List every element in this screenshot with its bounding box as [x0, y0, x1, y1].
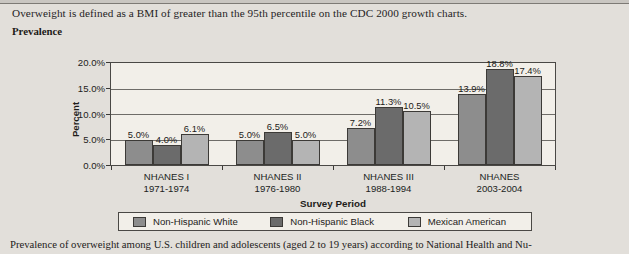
y-axis-tick-label: 10.0%: [78, 108, 105, 119]
survey-name: NHANES II: [222, 171, 333, 183]
x-axis-category-label: NHANES I1971-1974: [111, 171, 222, 194]
bar-value-label: 18.8%: [486, 58, 513, 69]
x-axis-category-label: NHANES II1976-1980: [222, 171, 333, 194]
definition-text: Overweight is defined as a BMI of greate…: [12, 7, 467, 19]
survey-name: NHANES III: [333, 171, 444, 183]
bar[interactable]: 10.5%: [403, 111, 431, 165]
bar[interactable]: 11.3%: [375, 107, 403, 165]
bar-chart: Percent 0.0%5.0%10.0%15.0%20.0% 5.0%4.0%…: [0, 40, 629, 232]
bar-series-container: 5.0%4.0%6.1%5.0%6.5%5.0%7.2%11.3%10.5%13…: [111, 63, 555, 165]
survey-name: NHANES I: [111, 171, 222, 183]
legend-item[interactable]: Mexican American: [394, 216, 531, 227]
y-axis-tick-label: 0.0%: [83, 160, 105, 171]
legend-label: Non-Hispanic White: [153, 216, 238, 227]
bar[interactable]: 6.1%: [181, 134, 209, 165]
bar-group: 13.9%18.8%17.4%: [444, 63, 555, 165]
legend-swatch: [408, 217, 421, 227]
x-axis-category-label: NHANES III1988-1994: [333, 171, 444, 194]
x-axis-title: Survey Period: [111, 198, 555, 209]
legend-item[interactable]: Non-Hispanic White: [119, 216, 256, 227]
bar[interactable]: 4.0%: [153, 145, 181, 165]
survey-name: NHANES: [444, 171, 555, 183]
y-axis-tick-label: 20.0%: [78, 57, 105, 68]
bar-value-label: 10.5%: [403, 100, 430, 111]
survey-years: 1988-1994: [333, 183, 444, 195]
y-axis-tick-label: 15.0%: [78, 82, 105, 93]
y-axis-tick-label: 5.0%: [83, 134, 105, 145]
bar-group: 5.0%4.0%6.1%: [111, 63, 222, 165]
bar-value-label: 6.5%: [267, 121, 288, 132]
bar-value-label: 7.2%: [350, 117, 371, 128]
prevalence-heading: Prevalence: [12, 25, 62, 37]
bar-value-label: 6.1%: [184, 123, 205, 134]
survey-years: 1971-1974: [111, 183, 222, 195]
bar[interactable]: 13.9%: [458, 94, 486, 165]
legend-item[interactable]: Non-Hispanic Black: [256, 216, 393, 227]
document-page: Overweight is defined as a BMI of greate…: [0, 0, 629, 254]
x-axis-tick-mark: [555, 166, 556, 170]
legend-label: Mexican American: [428, 216, 506, 227]
bar-value-label: 5.0%: [128, 129, 149, 140]
x-axis-tick-mark: [222, 166, 223, 170]
bar[interactable]: 7.2%: [347, 128, 375, 165]
x-axis-tick-mark: [444, 166, 445, 170]
bar[interactable]: 5.0%: [292, 140, 320, 166]
bar-value-label: 11.3%: [376, 96, 402, 107]
bar-value-label: 5.0%: [239, 129, 260, 140]
chart-legend: Non-Hispanic WhiteNon-Hispanic BlackMexi…: [118, 212, 532, 231]
bar-value-label: 13.9%: [458, 83, 485, 94]
bar-value-label: 5.0%: [295, 129, 316, 140]
survey-years: 2003-2004: [444, 183, 555, 195]
bar-value-label: 17.4%: [514, 65, 541, 76]
x-axis-tick-mark: [111, 166, 112, 170]
x-axis-tick-mark: [333, 166, 334, 170]
bar[interactable]: 17.4%: [514, 76, 542, 165]
survey-years: 1976-1980: [222, 183, 333, 195]
bar[interactable]: 5.0%: [125, 140, 153, 166]
bar[interactable]: 18.8%: [486, 69, 514, 165]
legend-swatch: [270, 217, 283, 227]
x-axis-category-label: NHANES2003-2004: [444, 171, 555, 194]
bar-value-label: 4.0%: [156, 134, 177, 145]
legend-swatch: [133, 217, 146, 227]
bar-group: 5.0%6.5%5.0%: [222, 63, 333, 165]
legend-label: Non-Hispanic Black: [290, 216, 374, 227]
bar[interactable]: 6.5%: [264, 132, 292, 165]
bar[interactable]: 5.0%: [236, 140, 264, 166]
figure-caption: Prevalence of overweight among U.S. chil…: [10, 238, 625, 250]
bar-group: 7.2%11.3%10.5%: [333, 63, 444, 165]
x-axis-labels: NHANES I1971-1974NHANES II1976-1980NHANE…: [111, 171, 555, 194]
top-rule: [0, 3, 629, 4]
